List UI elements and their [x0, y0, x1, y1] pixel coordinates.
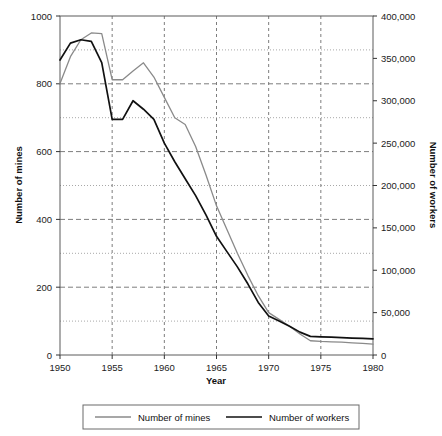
left-axis-tick-labels: 02004006008001000	[31, 11, 52, 361]
right-tick-label: 100,000	[381, 265, 415, 276]
right-tick-label: 400,000	[381, 11, 415, 22]
x-tick-label: 1960	[154, 362, 175, 373]
x-tick-label: 1965	[206, 362, 227, 373]
right-tick-label: 150,000	[381, 222, 415, 233]
x-tick-label: 1950	[49, 362, 70, 373]
right-tick-label: 0	[381, 350, 386, 361]
left-tick-label: 400	[36, 214, 52, 225]
chart-container: 02004006008001000 050,000100,000150,0002…	[0, 0, 442, 436]
legend-label-workers: Number of workers	[269, 412, 349, 423]
y2-axis-title: Number of workers	[428, 142, 439, 229]
left-tick-label: 200	[36, 282, 52, 293]
x-axis-tick-labels: 1950195519601965197019751980	[49, 362, 383, 373]
vertical-gridlines	[112, 16, 321, 355]
line-chart: 02004006008001000 050,000100,000150,0002…	[0, 0, 442, 436]
right-tick-label: 250,000	[381, 138, 415, 149]
data-series-lines	[60, 33, 373, 344]
left-tick-label: 600	[36, 146, 52, 157]
x-tick-label: 1975	[310, 362, 331, 373]
x-tick-label: 1980	[362, 362, 383, 373]
chart-legend: Number of mines Number of workers	[83, 405, 359, 429]
x-tick-label: 1955	[102, 362, 123, 373]
left-tick-label: 1000	[31, 11, 52, 22]
y-axis-title: Number of mines	[13, 146, 24, 224]
right-tick-label: 200,000	[381, 180, 415, 191]
left-tick-label: 800	[36, 78, 52, 89]
x-axis-title: Year	[206, 375, 226, 386]
left-axis-ticks	[56, 16, 60, 355]
right-axis-ticks	[373, 16, 377, 355]
x-axis-ticks	[60, 355, 373, 359]
right-axis-tick-labels: 050,000100,000150,000200,000250,000300,0…	[381, 11, 415, 361]
legend-label-mines: Number of mines	[138, 412, 211, 423]
series-line-mines	[60, 33, 373, 344]
right-tick-label: 50,000	[381, 307, 410, 318]
x-tick-label: 1970	[258, 362, 279, 373]
left-tick-label: 0	[47, 350, 52, 361]
right-tick-label: 300,000	[381, 95, 415, 106]
right-tick-label: 350,000	[381, 53, 415, 64]
